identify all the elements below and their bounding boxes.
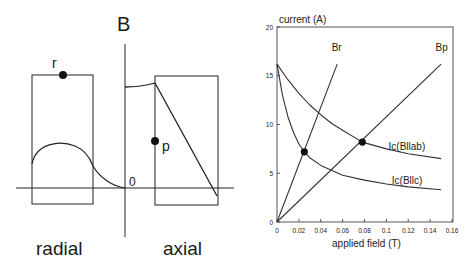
- x-tick-label: 0.1: [382, 227, 391, 234]
- axial-field-curve: [125, 83, 217, 196]
- y-tick-label: 0: [269, 219, 273, 226]
- y-axis-label: current (A): [279, 14, 326, 25]
- x-tick-label: 0: [275, 227, 279, 234]
- point-p-label: p: [162, 138, 170, 154]
- series-line-ic-bllc-: [277, 64, 441, 190]
- axial-label: axial: [163, 238, 202, 259]
- x-tick-label: 0.08: [358, 227, 371, 234]
- y-tick-label: 10: [266, 121, 274, 128]
- point-r-marker: [59, 71, 67, 79]
- point-r-label: r: [52, 55, 57, 71]
- radial-label: radial: [36, 238, 82, 259]
- x-tick-label: 0.12: [402, 227, 415, 234]
- origin-label: 0: [129, 175, 136, 189]
- point-p-marker: [151, 137, 159, 145]
- intersection-marker: [359, 138, 366, 145]
- radial-field-curve: [32, 143, 125, 188]
- x-tick-label: 0.02: [293, 227, 306, 234]
- x-axis-label: applied field (T): [332, 238, 401, 249]
- axis-label-b: B: [117, 13, 130, 35]
- critical-current-chart: 00.020.040.060.080.10.120.140.1605101520…: [266, 14, 459, 249]
- series-label: Ic(Bllab): [389, 141, 426, 152]
- figure: B 0 r p radial axial 00.020.040.060.080.…: [0, 0, 473, 264]
- y-tick-label: 15: [266, 72, 274, 79]
- series-line-br: [277, 64, 337, 222]
- series-label: Bp: [436, 42, 449, 53]
- field-profile-diagram: [16, 44, 234, 237]
- intersection-marker: [301, 148, 308, 155]
- y-tick-label: 20: [266, 24, 274, 31]
- radial-conductor-rect: [32, 75, 93, 204]
- series-label: Ic(Bllc): [392, 175, 423, 186]
- plot-frame: [277, 27, 453, 222]
- y-tick-label: 5: [269, 170, 273, 177]
- x-tick-label: 0.14: [424, 227, 437, 234]
- x-tick-label: 0.16: [446, 227, 459, 234]
- x-tick-label: 0.06: [336, 227, 349, 234]
- x-tick-label: 0.04: [314, 227, 327, 234]
- series-label: Br: [332, 42, 343, 53]
